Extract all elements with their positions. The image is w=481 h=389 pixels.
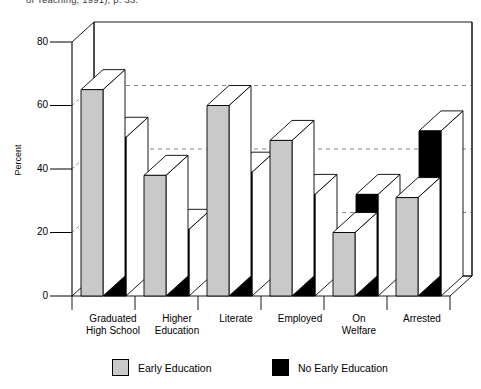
bar-early-education	[207, 86, 251, 297]
bar-early-education	[81, 70, 125, 296]
legend-entry-no-early-education: No Early Education	[272, 359, 388, 376]
bar-early-education	[144, 155, 188, 296]
legend-entry-early-education: Early Education	[112, 359, 212, 376]
chart-legend: Early Education No Early Education	[112, 357, 442, 383]
bar-early-education	[270, 120, 314, 296]
legend-swatch-gray	[112, 359, 129, 376]
bar-early-education	[396, 178, 440, 296]
plot-area	[0, 0, 481, 389]
legend-swatch-black	[272, 359, 289, 376]
legend-label: Early Education	[138, 362, 212, 374]
bars-group	[81, 70, 463, 296]
legend-label: No Early Education	[298, 362, 388, 374]
bar-chart: of Teaching, 1991), p. 33. Percent 80 60…	[0, 0, 481, 389]
